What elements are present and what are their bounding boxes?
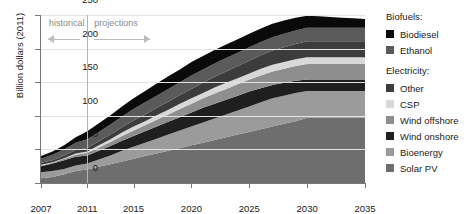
arrow-right-icon xyxy=(94,34,150,44)
legend-item-csp[interactable]: CSP xyxy=(386,96,470,112)
legend-group-electricity: Electricity: xyxy=(386,65,470,76)
x-tick-label: 2007 xyxy=(21,203,61,214)
legend-item-label: Other xyxy=(400,83,424,94)
legend-item-label: Wind onshore xyxy=(400,131,459,142)
x-tick-label: 2035 xyxy=(345,203,385,214)
x-tick xyxy=(191,183,192,188)
gridline xyxy=(41,116,365,117)
legend-swatch-icon xyxy=(386,148,394,156)
legend-swatch-icon xyxy=(386,46,394,54)
legend-item-biodiesel[interactable]: Biodiesel xyxy=(386,26,470,42)
chart-root: Billion dollars (2011) historical projec… xyxy=(0,0,470,214)
x-tick xyxy=(365,183,366,188)
x-tick xyxy=(41,183,42,188)
y-tick-label: 250 xyxy=(58,0,98,5)
legend-swatch-icon xyxy=(386,132,394,140)
x-tick-label: 2015 xyxy=(114,203,154,214)
legend-item-solar-pv[interactable]: Solar PV xyxy=(386,160,470,176)
y-tick xyxy=(35,82,40,83)
legend-swatch-icon xyxy=(386,84,394,92)
x-tick-label: 2011 xyxy=(67,203,107,214)
legend-swatch-icon xyxy=(386,116,394,124)
y-tick xyxy=(35,49,40,50)
legend-item-label: CSP xyxy=(400,99,420,110)
y-tick-label: 150 xyxy=(58,61,98,72)
x-tick-label: 2020 xyxy=(171,203,211,214)
legend-item-label: Ethanol xyxy=(400,45,432,56)
legend-item-label: Wind offshore xyxy=(400,115,458,126)
gridline xyxy=(41,49,365,50)
y-tick-label: 0 xyxy=(58,162,98,173)
y-tick xyxy=(35,183,40,184)
y-tick-label: 200 xyxy=(58,28,98,39)
x-tick-label: 2030 xyxy=(287,203,327,214)
x-tick xyxy=(249,183,250,188)
y-tick xyxy=(35,149,40,150)
legend-group-biofuels: Biofuels: xyxy=(386,11,470,22)
legend-swatch-icon xyxy=(386,30,394,38)
legend-item-label: Solar PV xyxy=(400,163,438,174)
legend-item-other[interactable]: Other xyxy=(386,80,470,96)
x-tick-label: 2025 xyxy=(229,203,269,214)
gridline xyxy=(41,82,365,83)
y-tick xyxy=(35,116,40,117)
y-tick xyxy=(35,15,40,16)
gridline xyxy=(41,15,365,16)
legend-item-bioenergy[interactable]: Bioenergy xyxy=(386,144,470,160)
legend-items-electricity: OtherCSPWind offshoreWind onshoreBioener… xyxy=(386,80,470,176)
legend-item-wind-onshore[interactable]: Wind onshore xyxy=(386,128,470,144)
x-tick xyxy=(307,183,308,188)
x-tick xyxy=(134,183,135,188)
y-tick-label: 100 xyxy=(58,95,98,106)
legend-item-ethanol[interactable]: Ethanol xyxy=(386,42,470,58)
x-tick xyxy=(87,183,88,188)
legend-item-label: Biodiesel xyxy=(400,29,439,40)
legend-item-wind-offshore[interactable]: Wind offshore xyxy=(386,112,470,128)
annotation-projections-label: projections xyxy=(94,18,138,28)
gridline xyxy=(41,149,365,150)
legend-swatch-icon xyxy=(386,164,394,172)
legend-item-label: Bioenergy xyxy=(400,147,443,158)
y-tick-label: 50 xyxy=(58,128,98,139)
legend-swatch-icon xyxy=(386,100,394,108)
y-axis-line xyxy=(40,15,41,184)
annotation-historical-label: historical xyxy=(49,18,85,28)
y-axis-title: Billion dollars (2011) xyxy=(14,0,25,131)
legend: Biofuels: BiodieselEthanol Electricity: … xyxy=(386,11,470,176)
legend-items-biofuels: BiodieselEthanol xyxy=(386,26,470,58)
x-axis-line xyxy=(40,183,366,184)
